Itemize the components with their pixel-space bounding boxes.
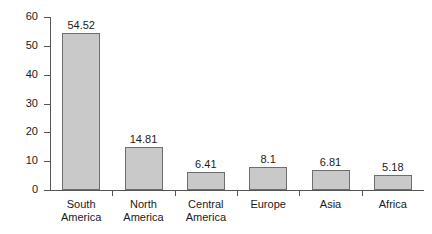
x-tick-mark [237, 191, 238, 196]
bar [62, 33, 100, 190]
y-axis-line [50, 17, 51, 191]
category-label: South America [46, 198, 116, 224]
y-tick-label: 20 [8, 126, 38, 137]
category-label: North America [109, 198, 179, 224]
category-label: Europe [233, 198, 303, 211]
y-tick-label: 30 [8, 98, 38, 109]
bar-chart-figure: Percentage of exports 0102030405060 54.5… [0, 0, 432, 234]
bar [374, 175, 412, 190]
x-tick-mark [362, 191, 363, 196]
bar [125, 147, 163, 190]
bar-value-label: 6.81 [301, 156, 361, 168]
bar [249, 167, 287, 190]
y-tick-mark [44, 132, 50, 133]
y-tick-mark [44, 46, 50, 47]
y-tick-label: 50 [8, 40, 38, 51]
y-tick-mark [44, 17, 50, 18]
bar-value-label: 54.52 [51, 19, 111, 31]
category-label: Central America [171, 198, 241, 224]
bar-value-label: 5.18 [363, 161, 423, 173]
bar [312, 170, 350, 190]
x-tick-mark [112, 191, 113, 196]
bar-value-label: 8.1 [238, 153, 298, 165]
category-label: Africa [358, 198, 428, 211]
y-tick-label: 0 [8, 184, 38, 195]
y-tick-mark [44, 104, 50, 105]
bar-value-label: 14.81 [114, 133, 174, 145]
y-tick-label: 60 [8, 11, 38, 22]
bar-value-label: 6.41 [176, 158, 236, 170]
y-tick-mark [44, 190, 50, 191]
y-tick-mark [44, 75, 50, 76]
x-tick-mark [299, 191, 300, 196]
y-tick-mark [44, 161, 50, 162]
x-tick-mark [175, 191, 176, 196]
category-label: Asia [296, 198, 366, 211]
y-tick-label: 10 [8, 155, 38, 166]
y-tick-label: 40 [8, 69, 38, 80]
bar [187, 172, 225, 190]
